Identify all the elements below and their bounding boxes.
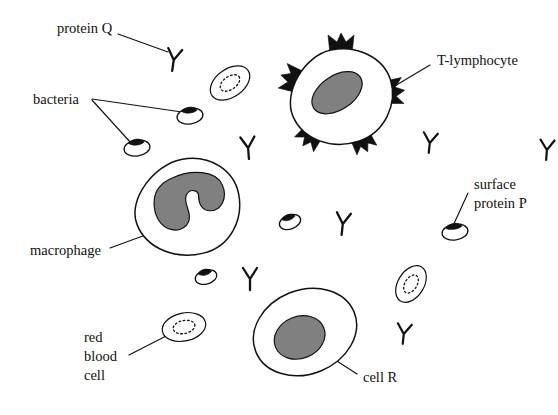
label-red-blood-cell-line-2: blood bbox=[84, 348, 118, 364]
immunology-diagram: protein Q bacteria T-lymphocyte macropha… bbox=[0, 0, 558, 415]
label-cell-r: cell R bbox=[363, 369, 398, 385]
cell-r bbox=[240, 273, 370, 391]
red-blood-cell bbox=[389, 260, 432, 308]
leader-surface-protein-p bbox=[452, 193, 468, 228]
label-surface-protein-p-line-1: surface bbox=[474, 176, 516, 192]
antibody bbox=[243, 268, 257, 290]
label-red-blood-cell-line-3: cell bbox=[84, 367, 105, 383]
antibody-icon bbox=[396, 323, 412, 344]
cell-t-lymphocyte bbox=[268, 20, 418, 171]
bacterium bbox=[193, 267, 218, 287]
antibody bbox=[335, 212, 351, 235]
antibody bbox=[396, 323, 412, 344]
antibody-icon bbox=[422, 132, 438, 153]
label-protein-q: protein Q bbox=[57, 20, 113, 36]
rbc-membrane bbox=[160, 309, 209, 346]
bacterium bbox=[123, 137, 151, 157]
cell-macrophage bbox=[128, 152, 246, 262]
label-macrophage: macrophage bbox=[30, 242, 101, 258]
label-surface-protein-p-line-2: protein P bbox=[474, 195, 527, 211]
bacterium bbox=[277, 211, 303, 233]
antibody bbox=[422, 132, 438, 153]
antibody bbox=[539, 140, 554, 161]
bacterium-with-surface-protein-p bbox=[441, 222, 469, 242]
antibody bbox=[240, 137, 256, 160]
label-red-blood-cell-line-1: red bbox=[84, 329, 103, 345]
antibody-icon bbox=[240, 137, 256, 160]
label-t-lymphocyte: T-lymphocyte bbox=[437, 52, 518, 68]
leader-bacteria-upper bbox=[92, 99, 182, 112]
antibody-icon bbox=[243, 268, 257, 290]
bacterium bbox=[176, 105, 204, 125]
leader-protein-q bbox=[118, 34, 168, 52]
antibody-icon bbox=[539, 140, 554, 161]
red-blood-cell bbox=[204, 59, 256, 107]
label-bacteria: bacteria bbox=[33, 91, 79, 107]
rbc-membrane bbox=[204, 59, 256, 107]
leader-bacteria-lower bbox=[92, 100, 131, 143]
red-blood-cell bbox=[160, 309, 209, 346]
rbc-membrane bbox=[389, 260, 432, 308]
diagram-canvas: protein Q bacteria T-lymphocyte macropha… bbox=[0, 0, 558, 415]
antibody-icon bbox=[335, 212, 351, 235]
